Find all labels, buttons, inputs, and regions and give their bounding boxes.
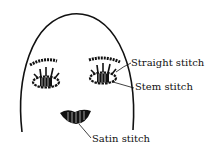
label-satin-stitch: Satin stitch	[92, 134, 150, 144]
label-straight-stitch: Straight stitch	[131, 58, 204, 68]
left-eyebrow	[30, 60, 57, 65]
label-stem-stitch: Stem stitch	[135, 82, 193, 92]
left-eye	[33, 67, 59, 88]
right-eye	[90, 63, 116, 84]
mouth	[60, 110, 91, 124]
right-eyebrow	[89, 58, 120, 62]
